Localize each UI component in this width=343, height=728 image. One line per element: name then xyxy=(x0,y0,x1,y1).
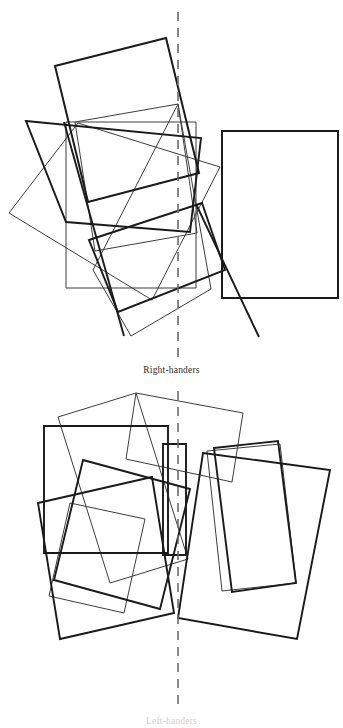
shape-rect-8 xyxy=(207,444,296,591)
panel-left-handers xyxy=(0,383,343,728)
shape-rect-9 xyxy=(178,453,330,639)
shape-open-path-right xyxy=(196,204,259,337)
shape-rect-6 xyxy=(163,444,186,555)
panel-right-handers xyxy=(0,0,343,358)
caption-right-handers: Right-handers xyxy=(0,365,343,375)
shape-rect-7 xyxy=(222,131,338,298)
shape-rect-5 xyxy=(26,121,201,232)
shape-rect-3 xyxy=(126,393,243,482)
shape-rect-6 xyxy=(89,203,225,312)
shape-open-path-left xyxy=(64,122,124,336)
shape-rect-3 xyxy=(66,122,196,288)
left-handers-drawing xyxy=(0,383,343,728)
figure-root: Right-handers Left-handers xyxy=(0,0,343,728)
caption-left-handers: Left-handers xyxy=(0,716,343,726)
right-handers-drawing xyxy=(0,0,343,358)
shape-rect-4 xyxy=(9,123,220,300)
shape-rect-5 xyxy=(49,503,145,613)
